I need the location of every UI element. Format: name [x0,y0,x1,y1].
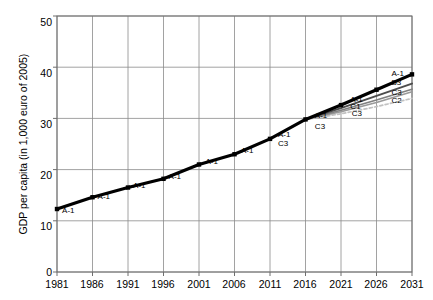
series-label-a-1: A-1 [315,111,327,120]
series-label-c3: C3 [315,122,325,131]
axis-frame [53,16,412,276]
series-label-c2: C2 [392,96,402,105]
series-label-c3: C3 [278,139,288,148]
series-label-b3: B3 [392,78,402,87]
series-label-a-1: A-1 [98,192,110,201]
gdp-per-capita-chart: GDP per capita (in 1,000 euro of 2005) 5… [0,0,433,300]
series-label-a-1: A-1 [278,130,290,139]
series-label-a-1: A-1 [206,157,218,166]
series-label-a-1: A-1 [133,181,145,190]
series-label-c3: C3 [352,109,362,118]
grid-lines [57,16,412,272]
series-label-a-1: A-1 [392,69,404,78]
series-label-a-1: A-1 [62,206,74,215]
plot-area [0,0,433,300]
series-label-a-1: A-1 [241,146,253,155]
series-label-a-1: A-1 [169,172,181,181]
